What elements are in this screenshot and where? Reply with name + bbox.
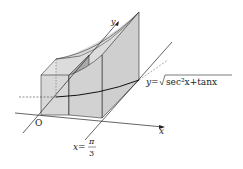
curve-label-rhs: sec²x+tanx	[166, 77, 217, 87]
x-axis-label: x	[159, 126, 164, 136]
bound-label-den: 3	[89, 149, 94, 158]
bound-label-lhs: x=	[73, 142, 86, 152]
origin-label: O	[35, 118, 42, 128]
bound-label-num: π	[88, 137, 95, 146]
y-axis-label: y	[110, 17, 116, 26]
solid-diagram: O x y y= sec²x+tanx x= π 3	[0, 0, 243, 169]
front-face	[41, 75, 69, 115]
curve-label-lhs: y=	[145, 77, 159, 87]
